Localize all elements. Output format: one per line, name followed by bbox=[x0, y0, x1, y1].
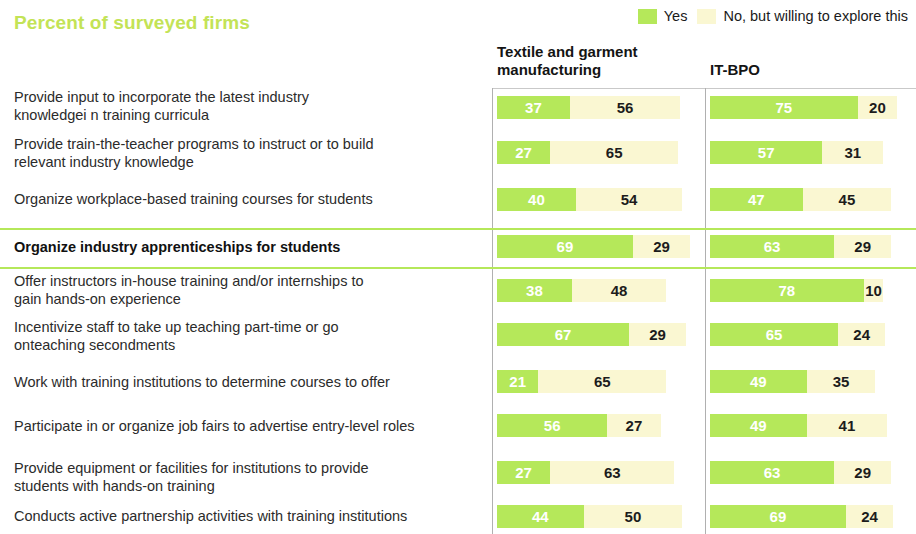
bar-value-label: 56 bbox=[544, 418, 561, 433]
bar-segment-no: 24 bbox=[838, 323, 885, 346]
bar-value-label: 20 bbox=[869, 100, 886, 115]
row-label: Offer instructors in-house training and/… bbox=[14, 272, 480, 309]
stacked-bar-itbpo: 6329 bbox=[710, 461, 891, 484]
bar-segment-yes: 37 bbox=[497, 96, 570, 119]
row-label-line: Organize workplace-based training course… bbox=[14, 190, 480, 208]
row-label-line: Offer instructors in-house training and/… bbox=[14, 272, 480, 290]
bar-segment-no: 29 bbox=[629, 323, 686, 346]
row-label-line: knowledgei n training curricula bbox=[14, 106, 480, 124]
row-label: Provide equipment or facilities for inst… bbox=[14, 459, 480, 496]
bar-value-label: 56 bbox=[617, 100, 634, 115]
bar-segment-no: 65 bbox=[538, 370, 666, 393]
bar-segment-yes: 21 bbox=[497, 370, 538, 393]
bar-value-label: 75 bbox=[776, 100, 793, 115]
bar-value-label: 31 bbox=[844, 145, 861, 160]
bar-value-label: 49 bbox=[750, 374, 767, 389]
bar-value-label: 47 bbox=[748, 192, 765, 207]
bar-value-label: 38 bbox=[526, 283, 543, 298]
bar-value-label: 63 bbox=[604, 465, 621, 480]
bar-segment-no: 45 bbox=[803, 188, 892, 211]
row-label: Incentivize staff to take up teaching pa… bbox=[14, 318, 480, 355]
stacked-bar-itbpo: 7810 bbox=[710, 279, 883, 302]
row-label: Organize industry apprenticeships for st… bbox=[14, 238, 480, 256]
bar-value-label: 29 bbox=[854, 239, 871, 254]
stacked-bar-itbpo: 6524 bbox=[710, 323, 885, 346]
row-label-line: Participate in or organize job fairs to … bbox=[14, 417, 480, 435]
bar-segment-yes: 47 bbox=[710, 188, 803, 211]
bar-value-label: 27 bbox=[515, 145, 532, 160]
column-header-textile: Textile and garment manufacturing bbox=[497, 43, 697, 80]
row-label: Conducts active partnership activities w… bbox=[14, 507, 480, 525]
stacked-bar-textile: 4054 bbox=[497, 188, 682, 211]
chart-canvas: Percent of surveyed firms Yes No, but wi… bbox=[0, 0, 916, 534]
bar-value-label: 65 bbox=[606, 145, 623, 160]
stacked-bar-itbpo: 7520 bbox=[710, 96, 897, 119]
bar-segment-yes: 49 bbox=[710, 414, 807, 437]
row-label-line: Provide input to incorporate the latest … bbox=[14, 88, 480, 106]
row-label-line: students with hands-on training bbox=[14, 477, 480, 495]
bar-segment-yes: 69 bbox=[710, 505, 846, 528]
bar-segment-yes: 56 bbox=[497, 414, 607, 437]
bar-segment-yes: 27 bbox=[497, 141, 550, 164]
stacked-bar-textile: 6929 bbox=[497, 235, 690, 258]
row-label-line: Provide train-the-teacher programs to in… bbox=[14, 135, 480, 153]
legend-label-no: No, but willing to explore this bbox=[723, 8, 908, 24]
bar-value-label: 48 bbox=[611, 283, 628, 298]
bar-value-label: 50 bbox=[625, 509, 642, 524]
legend-swatch-no bbox=[697, 9, 716, 24]
stacked-bar-itbpo: 4745 bbox=[710, 188, 891, 211]
stacked-bar-textile: 2763 bbox=[497, 461, 674, 484]
bar-segment-no: 29 bbox=[633, 235, 690, 258]
bar-segment-yes: 63 bbox=[710, 461, 834, 484]
bar-segment-yes: 40 bbox=[497, 188, 576, 211]
legend-swatch-yes bbox=[638, 9, 657, 24]
bar-value-label: 24 bbox=[861, 509, 878, 524]
bar-segment-no: 41 bbox=[807, 414, 888, 437]
bar-segment-no: 54 bbox=[576, 188, 682, 211]
bar-value-label: 65 bbox=[594, 374, 611, 389]
bar-segment-yes: 75 bbox=[710, 96, 858, 119]
bar-segment-yes: 44 bbox=[497, 505, 584, 528]
row-label: Provide train-the-teacher programs to in… bbox=[14, 135, 480, 172]
row-label: Provide input to incorporate the latest … bbox=[14, 88, 480, 125]
bar-segment-yes: 78 bbox=[710, 279, 864, 302]
stacked-bar-itbpo: 6329 bbox=[710, 235, 891, 258]
stacked-bar-itbpo: 4935 bbox=[710, 370, 875, 393]
row-label-line: Conducts active partnership activities w… bbox=[14, 507, 480, 525]
bar-segment-yes: 65 bbox=[710, 323, 838, 346]
stacked-bar-textile: 3756 bbox=[497, 96, 680, 119]
bar-value-label: 21 bbox=[509, 374, 526, 389]
bar-segment-no: 20 bbox=[858, 96, 897, 119]
legend: Yes No, but willing to explore this bbox=[638, 8, 908, 24]
page-title: Percent of surveyed firms bbox=[14, 12, 250, 34]
bar-value-label: 24 bbox=[853, 327, 870, 342]
column-header-itbpo: IT-BPO bbox=[710, 61, 900, 79]
bar-value-label: 65 bbox=[766, 327, 783, 342]
bar-value-label: 29 bbox=[653, 239, 670, 254]
bar-segment-yes: 69 bbox=[497, 235, 633, 258]
bar-segment-yes: 49 bbox=[710, 370, 807, 393]
bar-segment-yes: 57 bbox=[710, 141, 822, 164]
bar-value-label: 27 bbox=[515, 465, 532, 480]
bar-value-label: 63 bbox=[764, 465, 781, 480]
row-label-line: relevant industry knowledge bbox=[14, 153, 480, 171]
bar-segment-no: 56 bbox=[570, 96, 680, 119]
bar-segment-no: 48 bbox=[572, 279, 667, 302]
stacked-bar-itbpo: 4941 bbox=[710, 414, 887, 437]
bar-segment-no: 65 bbox=[550, 141, 678, 164]
stacked-bar-itbpo: 6924 bbox=[710, 505, 893, 528]
stacked-bar-itbpo: 5731 bbox=[710, 141, 883, 164]
row-label-line: Work with training institutions to deter… bbox=[14, 373, 480, 391]
row-label-line: Provide equipment or facilities for inst… bbox=[14, 459, 480, 477]
bar-value-label: 41 bbox=[839, 418, 856, 433]
bar-segment-no: 31 bbox=[822, 141, 883, 164]
bar-value-label: 29 bbox=[649, 327, 666, 342]
bar-value-label: 78 bbox=[778, 283, 795, 298]
bar-value-label: 69 bbox=[770, 509, 787, 524]
bar-segment-yes: 67 bbox=[497, 323, 629, 346]
highlight-rule-bottom bbox=[0, 267, 916, 269]
bar-segment-no: 35 bbox=[807, 370, 876, 393]
bar-value-label: 67 bbox=[555, 327, 572, 342]
bar-value-label: 35 bbox=[833, 374, 850, 389]
column-divider-itbpo bbox=[705, 88, 706, 534]
